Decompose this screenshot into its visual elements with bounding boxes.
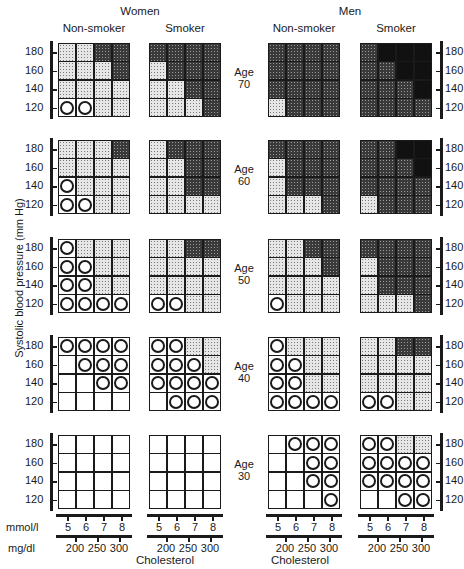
risk-cell: [186, 196, 202, 213]
mmol-unit-label: mmol/l: [6, 521, 38, 533]
circle-icon: [60, 179, 74, 193]
men-non-smoker-header: Non-smoker: [268, 22, 340, 34]
y-tick: [436, 186, 442, 188]
risk-cell: [113, 62, 129, 79]
risk-cell: [186, 436, 202, 453]
circle-icon: [362, 474, 376, 488]
risk-cell: [415, 258, 431, 275]
risk-cell: [323, 196, 339, 213]
x-tick-label-mgdl: 200: [154, 542, 178, 554]
risk-grid-men-non-smoker-age-40: [268, 337, 340, 411]
circle-icon: [151, 358, 165, 372]
risk-cell: [168, 258, 184, 275]
circle-icon: [324, 437, 338, 451]
risk-cell: [415, 491, 431, 508]
risk-cell: [77, 159, 93, 176]
risk-cell: [77, 356, 93, 373]
risk-cell: [186, 491, 202, 508]
risk-cell: [379, 473, 395, 490]
risk-cell: [77, 491, 93, 508]
risk-cell: [186, 393, 202, 410]
circle-icon: [416, 456, 430, 470]
circle-icon: [270, 297, 284, 311]
risk-grid-women-non-smoker-age-40: [58, 337, 130, 411]
risk-cell: [113, 178, 129, 195]
x-tick-label-mgdl: 200: [63, 542, 87, 554]
risk-cell: [287, 141, 303, 158]
x-tick-label-mgdl: 300: [107, 542, 131, 554]
risk-cell: [150, 159, 166, 176]
y-tick-label: 180: [25, 339, 49, 351]
risk-cell: [361, 375, 377, 392]
risk-cell: [269, 473, 285, 490]
circle-icon: [60, 241, 74, 255]
risk-cell: [305, 159, 321, 176]
x-tick-label-mgdl: 200: [273, 542, 297, 554]
risk-cell: [397, 295, 413, 312]
risk-cell: [305, 393, 321, 410]
y-tick: [51, 444, 57, 446]
risk-grid-men-non-smoker-age-70: [268, 43, 340, 117]
circle-icon: [60, 260, 74, 274]
risk-cell: [59, 473, 75, 490]
risk-cell: [168, 196, 184, 213]
risk-cell: [397, 393, 413, 410]
y-tick: [51, 500, 57, 502]
y-tick: [436, 168, 442, 170]
risk-cell: [269, 436, 285, 453]
y-tick-label: 160: [25, 358, 49, 370]
risk-grid-men-smoker-age-70: [360, 43, 432, 117]
risk-cell: [379, 436, 395, 453]
risk-cell: [323, 99, 339, 116]
risk-cell: [305, 62, 321, 79]
risk-cell: [323, 338, 339, 355]
circle-icon: [416, 474, 430, 488]
risk-cell: [77, 81, 93, 98]
risk-cell: [269, 277, 285, 294]
risk-cell: [168, 99, 184, 116]
risk-cell: [113, 375, 129, 392]
risk-cell: [150, 375, 166, 392]
risk-cell: [269, 178, 285, 195]
risk-cell: [287, 81, 303, 98]
risk-cell: [269, 454, 285, 471]
circle-icon: [306, 395, 320, 409]
risk-grid-men-smoker-age-60: [360, 140, 432, 214]
risk-cell: [168, 159, 184, 176]
risk-cell: [59, 196, 75, 213]
risk-grid-men-non-smoker-age-50: [268, 239, 340, 313]
risk-cell: [150, 141, 166, 158]
circle-icon: [205, 395, 219, 409]
circle-icon: [288, 358, 302, 372]
risk-cell: [204, 81, 220, 98]
circle-icon: [416, 493, 430, 507]
risk-cell: [59, 295, 75, 312]
risk-cell: [95, 196, 111, 213]
risk-cell: [305, 99, 321, 116]
risk-cell: [59, 178, 75, 195]
circle-icon: [362, 395, 376, 409]
risk-cell: [95, 295, 111, 312]
circle-icon: [169, 358, 183, 372]
risk-cell: [269, 62, 285, 79]
risk-cell: [305, 491, 321, 508]
risk-cell: [287, 473, 303, 490]
risk-cell: [168, 62, 184, 79]
risk-cell: [204, 159, 220, 176]
women-non-smoker-header: Non-smoker: [58, 22, 130, 34]
risk-cell: [361, 81, 377, 98]
circle-icon: [169, 376, 183, 390]
risk-cell: [287, 240, 303, 257]
risk-cell: [77, 99, 93, 116]
circle-icon: [398, 456, 412, 470]
risk-cell: [415, 454, 431, 471]
risk-cell: [77, 436, 93, 453]
risk-cell: [186, 356, 202, 373]
risk-cell: [150, 196, 166, 213]
risk-cell: [305, 295, 321, 312]
risk-cell: [186, 44, 202, 61]
risk-cell: [415, 62, 431, 79]
risk-cell: [287, 178, 303, 195]
risk-cell: [95, 277, 111, 294]
circle-icon: [205, 376, 219, 390]
